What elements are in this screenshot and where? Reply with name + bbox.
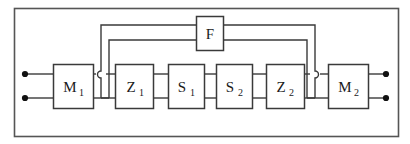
block-F-label: F xyxy=(206,26,214,42)
block-M1-label: M xyxy=(63,79,76,95)
block-diagram-figure: F M 1 Z 1 S 1 S 2 Z 2 M 2 xyxy=(0,0,410,144)
block-Z2-subscript: 2 xyxy=(289,87,294,98)
block-Z1-subscript: 1 xyxy=(139,87,144,98)
terminal-in-bottom xyxy=(22,95,28,101)
block-Z2-label: Z xyxy=(276,79,285,95)
block-S1-label: S xyxy=(178,79,186,95)
block-M1-subscript: 1 xyxy=(79,87,84,98)
input-leads xyxy=(25,74,53,98)
terminal-out-top xyxy=(383,71,389,77)
block-S1 xyxy=(169,65,205,109)
diagram-canvas: F M 1 Z 1 S 1 S 2 Z 2 M 2 xyxy=(0,0,410,144)
block-Z1-label: Z xyxy=(126,79,135,95)
block-M2-label: M xyxy=(338,79,351,95)
block-S2-subscript: 2 xyxy=(238,87,243,98)
block-S2-label: S xyxy=(226,79,234,95)
output-leads xyxy=(368,74,386,98)
block-M2-subscript: 2 xyxy=(354,87,359,98)
block-S1-subscript: 1 xyxy=(190,87,195,98)
terminal-in-top xyxy=(22,71,28,77)
terminal-out-bottom xyxy=(383,95,389,101)
block-S2 xyxy=(217,65,253,109)
